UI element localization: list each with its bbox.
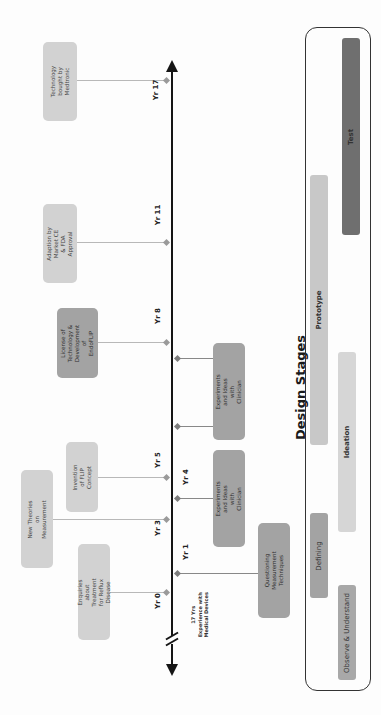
event-text: Experiments and Ideas with Clinician (215, 481, 243, 516)
event-experiments-lower: Experiments and Ideas with Clinician (213, 450, 245, 547)
stage-label: Prototype (315, 290, 323, 329)
year-label-5: Yr 5 (154, 452, 162, 468)
marker-exp-upper-bottom-icon (174, 423, 181, 430)
connector-yr4 (177, 498, 213, 499)
stage-label: Observe & Understand (343, 593, 351, 673)
year-label-1: Yr 1 (182, 544, 190, 560)
arrow-up-icon (166, 60, 178, 72)
connector-yr11 (77, 242, 167, 243)
event-text: New Theories on Measurement (27, 500, 48, 538)
marker-yr1-icon (174, 570, 181, 577)
stage-label: Ideation (343, 426, 351, 459)
event-questioning-measurement: Questioning Measurement Techniques (258, 523, 290, 618)
stage-prototype: Prototype (310, 175, 328, 445)
marker-yr8-icon (163, 339, 170, 346)
event-text: Adaption by Market CE & FDA Approval (46, 227, 74, 261)
marker-yr4-icon (174, 495, 181, 502)
year-label-17: Yr 17 (152, 80, 160, 101)
event-technology-bought: Technology bought by Medtronic (43, 42, 77, 121)
timeline-axis (171, 68, 173, 670)
stage-observe-understand: Observe & Understand (338, 585, 356, 680)
stage-defining: Defining (310, 513, 328, 598)
event-new-theories: New Theories on Measurement (21, 470, 53, 568)
connector-exp-upper-top (177, 358, 213, 359)
year-label-0: Yr 0 (154, 593, 162, 609)
year-label-3: Yr 3 (154, 520, 162, 536)
event-enquiries-reflux: Enquiries about Treatment for Reflux Dis… (78, 544, 110, 640)
marker-yr0-icon (163, 589, 170, 596)
stage-label: Defining (315, 541, 323, 570)
connector-yr5 (98, 477, 167, 478)
marker-yr3-icon (163, 516, 170, 523)
event-text: Experiments and Ideas with Clinician (215, 374, 243, 409)
event-text: Questioning Measurement Techniques (264, 551, 285, 589)
event-experiments-upper: Experiments and Ideas with Clinician (213, 343, 245, 440)
arrow-down-icon (166, 664, 178, 676)
marker-yr5-icon (163, 474, 170, 481)
stage-label: Test (347, 128, 355, 144)
experience-note: 17 Yrs Experience with Medical Devices (190, 585, 210, 645)
stage-test: Test (342, 38, 360, 235)
marker-exp-upper-top-icon (174, 355, 181, 362)
event-text: Invention of FLIP Concept (72, 461, 93, 493)
marker-yr17-icon (163, 77, 170, 84)
event-text: License of Technology & Development of E… (60, 323, 95, 364)
marker-yr11-icon (163, 239, 170, 246)
event-market-approval: Adaption by Market CE & FDA Approval (43, 204, 77, 283)
event-text: Technology bought by Medtronic (50, 65, 71, 99)
event-text: Enquiries about Treatment for Reflux Dis… (77, 576, 112, 608)
event-flip-invention: Invention of FLIP Concept (66, 442, 98, 512)
year-label-4: Yr 4 (182, 469, 190, 485)
connector-yr1 (177, 573, 258, 574)
year-label-11: Yr 11 (154, 205, 162, 226)
connector-yr3 (53, 519, 167, 520)
connector-yr8 (98, 342, 167, 343)
stage-ideation: Ideation (338, 352, 356, 532)
event-license-endoflip: License of Technology & Development of E… (57, 308, 98, 378)
year-label-8: Yr 8 (154, 308, 162, 324)
connector-exp-upper-bottom (177, 426, 213, 427)
